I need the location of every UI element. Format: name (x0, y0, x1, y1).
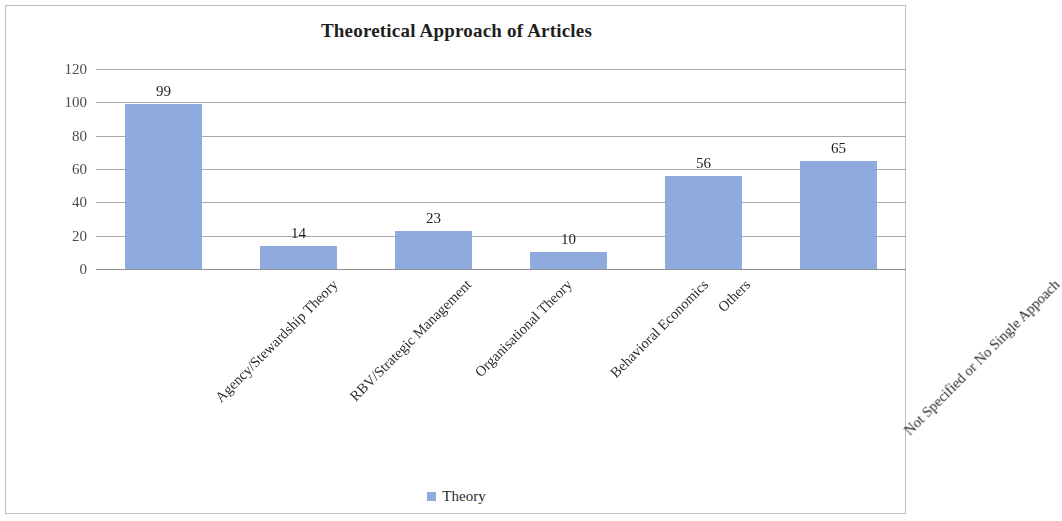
bar[interactable] (665, 176, 742, 269)
bar-value-label: 10 (561, 232, 576, 247)
bars-layer: 991423105665 (96, 69, 906, 269)
category-label: Agency/Stewardship Theory (212, 277, 340, 405)
y-axis-tick-label: 40 (72, 195, 87, 210)
category-label: Not Specified or No Single Appoach (901, 277, 1062, 438)
category-label: Behavioral Economics (607, 277, 710, 380)
chart-title: Theoretical Approach of Articles (6, 20, 907, 42)
bar[interactable] (260, 246, 337, 269)
legend-label: Theory (442, 489, 485, 504)
legend-item-theory[interactable]: Theory (427, 489, 485, 504)
bar[interactable] (125, 104, 202, 269)
bar-value-label: 14 (291, 226, 306, 241)
y-axis-tick-label: 100 (65, 95, 88, 110)
legend-swatch-icon (427, 492, 436, 501)
chart-legend: Theory (6, 489, 907, 504)
category-label: RBV/Strategic Management (347, 277, 474, 404)
y-axis-tick-label: 20 (72, 228, 87, 243)
y-axis-tick-label: 60 (72, 162, 87, 177)
category-label: Others (715, 277, 753, 315)
y-axis-tick-label: 0 (80, 262, 88, 277)
bar[interactable] (395, 231, 472, 269)
plot-area: 020406080100120 991423105665 (96, 69, 906, 269)
gridline-0: 0 (96, 269, 906, 270)
y-axis-tick-label: 80 (72, 128, 87, 143)
bar-value-label: 99 (156, 84, 171, 99)
bar-value-label: 23 (426, 211, 441, 226)
category-label: Organisational Theory (472, 277, 574, 379)
bar-value-label: 56 (696, 156, 711, 171)
y-axis-tick-label: 120 (65, 62, 88, 77)
bar-value-label: 65 (831, 141, 846, 156)
bar[interactable] (530, 252, 607, 269)
chart-frame: Theoretical Approach of Articles 0204060… (5, 5, 906, 514)
category-axis-labels: Agency/Stewardship TheoryRBV/Strategic M… (96, 271, 906, 471)
bar[interactable] (800, 161, 877, 269)
